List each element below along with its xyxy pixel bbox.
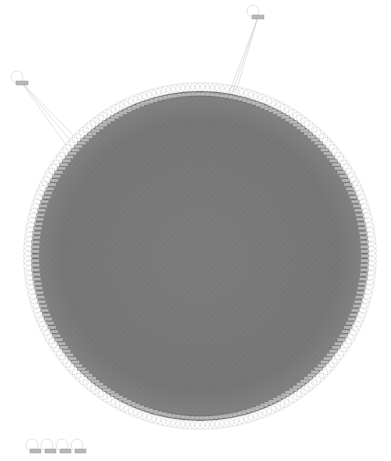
graph-node[interactable]: [35, 218, 43, 221]
graph-node[interactable]: [74, 364, 82, 367]
graph-node[interactable]: [68, 152, 76, 155]
graph-node[interactable]: [34, 222, 42, 225]
graph-node[interactable]: [41, 309, 49, 312]
graph-node[interactable]: [88, 132, 96, 135]
graph-node[interactable]: [340, 175, 348, 178]
graph-node[interactable]: [300, 129, 308, 132]
graph-node[interactable]: [324, 357, 332, 360]
graph-node[interactable]: [297, 383, 305, 386]
graph-node[interactable]: [48, 326, 56, 329]
graph-node[interactable]: [308, 135, 316, 138]
graph-node[interactable]: [95, 126, 103, 129]
graph-node[interactable]: [32, 273, 40, 276]
graph-node[interactable]: [84, 374, 92, 377]
graph-node[interactable]: [361, 250, 369, 253]
graph-node[interactable]: [311, 138, 319, 141]
graph-node[interactable]: [78, 367, 86, 370]
graph-node[interactable]: [55, 171, 63, 174]
graph-node[interactable]: [314, 367, 322, 370]
graph-node[interactable]: [344, 326, 352, 329]
graph-node[interactable]: [60, 163, 68, 166]
graph-node[interactable]: [33, 282, 41, 285]
graph-node[interactable]: [359, 227, 367, 230]
graph-node[interactable]: [42, 196, 50, 199]
graph-node[interactable]: [337, 338, 345, 341]
isolated-4-node[interactable]: [71, 439, 86, 453]
graph-node[interactable]: [342, 330, 350, 333]
graph-node[interactable]: [300, 380, 308, 383]
graph-node[interactable]: [353, 204, 361, 207]
graph-node[interactable]: [33, 227, 41, 230]
graph-node[interactable]: [42, 313, 50, 316]
graph-node[interactable]: [50, 179, 58, 182]
graph-node[interactable]: [344, 183, 352, 186]
graph-node[interactable]: [81, 138, 89, 141]
graph-node[interactable]: [39, 305, 47, 308]
isolated-2-node[interactable]: [41, 439, 56, 453]
graph-node[interactable]: [32, 241, 40, 244]
isolated-3-node[interactable]: [56, 439, 71, 453]
graph-node[interactable]: [44, 191, 52, 194]
graph-node[interactable]: [350, 196, 358, 199]
graph-node[interactable]: [359, 231, 367, 234]
network-graph-canvas[interactable]: [0, 0, 391, 461]
graph-node[interactable]: [361, 245, 369, 248]
graph-node[interactable]: [321, 148, 329, 151]
graph-node[interactable]: [99, 386, 107, 389]
graph-node[interactable]: [327, 353, 335, 356]
graph-node[interactable]: [46, 187, 54, 190]
graph-node[interactable]: [71, 148, 79, 151]
graph-node[interactable]: [31, 245, 39, 248]
graph-node[interactable]: [329, 159, 337, 162]
graph-node[interactable]: [57, 342, 65, 345]
graph-node[interactable]: [359, 278, 367, 281]
graph-node[interactable]: [38, 209, 46, 212]
graph-node[interactable]: [60, 346, 68, 349]
graph-node[interactable]: [88, 377, 96, 380]
graph-node[interactable]: [335, 167, 343, 170]
graph-node[interactable]: [350, 313, 358, 316]
graph-node[interactable]: [348, 318, 356, 321]
graph-node[interactable]: [32, 236, 40, 239]
graph-node[interactable]: [36, 213, 44, 216]
graph-node[interactable]: [358, 222, 366, 225]
graph-node[interactable]: [31, 255, 39, 258]
graph-node[interactable]: [308, 374, 316, 377]
graph-node[interactable]: [31, 259, 39, 262]
graph-node[interactable]: [31, 264, 39, 267]
graph-node[interactable]: [304, 132, 312, 135]
graph-node[interactable]: [318, 145, 326, 148]
graph-node[interactable]: [48, 183, 56, 186]
graph-node[interactable]: [84, 135, 92, 138]
graph-node[interactable]: [297, 126, 305, 129]
graph-node[interactable]: [36, 296, 44, 299]
graph-node[interactable]: [361, 259, 369, 262]
graph-node[interactable]: [360, 273, 368, 276]
graph-node[interactable]: [356, 213, 364, 216]
graph-node[interactable]: [33, 278, 41, 281]
graph-node[interactable]: [351, 309, 359, 312]
graph-node[interactable]: [44, 318, 52, 321]
graph-node[interactable]: [95, 383, 103, 386]
graph-node[interactable]: [357, 218, 365, 221]
graph-node[interactable]: [332, 346, 340, 349]
graph-node[interactable]: [332, 163, 340, 166]
graph-node[interactable]: [46, 322, 54, 325]
graph-node[interactable]: [329, 350, 337, 353]
graph-node[interactable]: [318, 364, 326, 367]
graph-node[interactable]: [32, 268, 40, 271]
graph-node[interactable]: [57, 167, 65, 170]
graph-node[interactable]: [92, 129, 100, 132]
graph-node[interactable]: [342, 179, 350, 182]
graph-node[interactable]: [293, 123, 301, 126]
graph-node[interactable]: [311, 371, 319, 374]
graph-node[interactable]: [337, 171, 345, 174]
graph-node[interactable]: [327, 156, 335, 159]
graph-node[interactable]: [304, 377, 312, 380]
graph-node[interactable]: [354, 300, 362, 303]
graph-node[interactable]: [33, 231, 41, 234]
graph-node[interactable]: [340, 334, 348, 337]
graph-node[interactable]: [92, 380, 100, 383]
graph-node[interactable]: [63, 350, 71, 353]
graph-node[interactable]: [357, 291, 365, 294]
